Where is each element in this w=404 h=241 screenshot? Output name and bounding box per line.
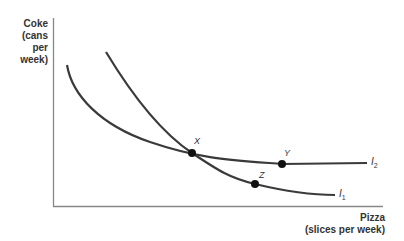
- x-axis-title: Pizza (slices per week): [305, 212, 385, 236]
- y-axis-title-line: Coke: [2, 18, 48, 30]
- point-z-dot: [251, 180, 259, 188]
- indifference-curve-i2: [67, 65, 367, 164]
- point-z-label: Z: [259, 170, 265, 180]
- point-y-dot: [278, 160, 286, 168]
- curve-i2-label: I2: [371, 156, 378, 169]
- curve-i1-label: I1: [339, 188, 346, 201]
- y-axis-title-line: (cans: [2, 30, 48, 42]
- point-x-dot: [188, 149, 196, 157]
- point-x-label: X: [194, 136, 200, 146]
- curve-i1-label-sub: 1: [342, 194, 346, 201]
- x-axis-title-line: Pizza: [305, 212, 385, 224]
- indifference-curve-i1: [106, 52, 335, 195]
- y-axis-title-line: per: [2, 42, 48, 54]
- x-axis-title-line: (slices per week): [305, 224, 385, 236]
- y-axis-title: Coke (cans per week): [2, 18, 48, 66]
- point-y-label: Y: [284, 148, 290, 158]
- curve-i2-label-sub: 2: [374, 162, 378, 169]
- indifference-curve-diagram: [0, 0, 404, 241]
- y-axis-title-line: week): [2, 54, 48, 66]
